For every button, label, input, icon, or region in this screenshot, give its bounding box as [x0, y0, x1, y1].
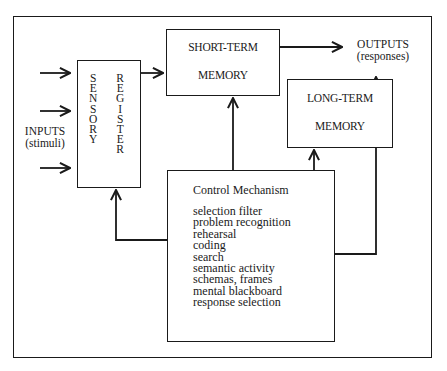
long-term-memory-box: LONG-TERM MEMORY: [287, 79, 393, 148]
outputs-label-line1: OUTPUTS: [350, 38, 416, 50]
outputs-label-line2: (responses): [350, 50, 416, 62]
letter: Y: [89, 134, 97, 144]
sensory-register-box: S E N S O R Y R E G I S T E R: [77, 60, 141, 188]
inputs-label: INPUTS (stimuli): [18, 125, 72, 149]
register-column: R E G I S T E R: [116, 73, 124, 155]
ltm-title-line1: LONG-TERM: [288, 92, 392, 104]
control-mechanism-list: selection filter problem recognition reh…: [193, 206, 291, 309]
list-item: response selection: [193, 297, 291, 308]
inputs-label-line2: (stimuli): [18, 137, 72, 149]
ltm-title-line2: MEMORY: [288, 120, 392, 132]
stm-title-line2: MEMORY: [167, 69, 279, 81]
letter: R: [116, 144, 124, 154]
inputs-label-line1: INPUTS: [18, 125, 72, 137]
control-to-sensory-arrow: [116, 190, 167, 240]
stm-title-line1: SHORT-TERM: [167, 41, 279, 53]
control-mechanism-title: Control Mechanism: [193, 183, 289, 198]
sensory-column: S E N S O R Y: [89, 73, 97, 144]
outputs-label: OUTPUTS (responses): [350, 38, 416, 62]
short-term-memory-box: SHORT-TERM MEMORY: [166, 29, 280, 96]
control-mechanism-box: Control Mechanism selection filter probl…: [167, 170, 335, 342]
